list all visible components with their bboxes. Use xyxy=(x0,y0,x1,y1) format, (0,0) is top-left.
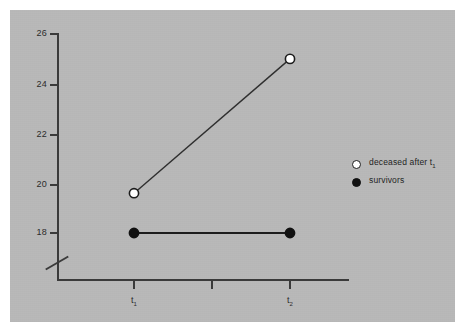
legend-label-deceased-sub: 1 xyxy=(432,162,436,168)
chart-legend: deceased after t1 survivors xyxy=(352,155,457,191)
legend-item-deceased[interactable]: deceased after t1 xyxy=(352,155,457,173)
data-point-1-1[interactable] xyxy=(285,228,294,237)
data-point-1-0[interactable] xyxy=(129,228,138,237)
data-point-0-1[interactable] xyxy=(285,54,294,63)
legend-label-deceased: deceased after t1 xyxy=(369,158,436,171)
legend-item-survivors[interactable]: survivors xyxy=(352,173,457,191)
series-line-0 xyxy=(134,59,290,193)
legend-label-survivors-base: survivors xyxy=(369,175,404,185)
filled-circle-icon xyxy=(352,178,361,187)
chart-figure: 26 24 22 20 18 t1 t2 deceased after t1 s… xyxy=(0,0,463,331)
series-group xyxy=(129,54,294,237)
data-point-0-0[interactable] xyxy=(129,189,138,198)
legend-label-survivors: survivors xyxy=(369,176,404,189)
legend-label-deceased-base: deceased after t xyxy=(369,157,432,167)
open-circle-icon xyxy=(352,160,361,169)
